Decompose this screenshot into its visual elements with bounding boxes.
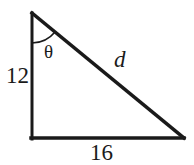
- label-hypotenuse: d: [114, 48, 126, 71]
- label-vertical-leg: 12: [6, 64, 29, 87]
- label-horizontal-leg: 16: [90, 141, 113, 164]
- triangle-side-hypotenuse: [32, 13, 184, 138]
- label-angle-theta: θ: [44, 42, 53, 61]
- right-triangle-figure: 12 16 d θ: [0, 0, 194, 165]
